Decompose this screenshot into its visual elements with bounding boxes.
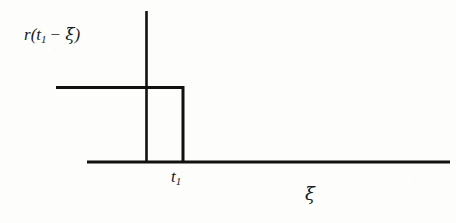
figure-canvas: r(t1−ξ) t1 ξ: [0, 0, 456, 223]
abscissa-axis-label: ξ: [305, 185, 315, 203]
tick-t1-subscript: 1: [176, 175, 182, 187]
step-function-curve: [56, 88, 183, 163]
ordinate-argument-xi: ξ: [65, 24, 74, 44]
ordinate-operator: −: [47, 25, 66, 44]
ordinate-function-name: r: [24, 25, 31, 44]
ordinate-axis-label: r(t1−ξ): [24, 26, 80, 45]
ordinate-close-paren: ): [75, 25, 81, 44]
ordinate-variable-subscript: 1: [41, 33, 47, 45]
x-tick-label-t1: t1: [171, 168, 181, 187]
